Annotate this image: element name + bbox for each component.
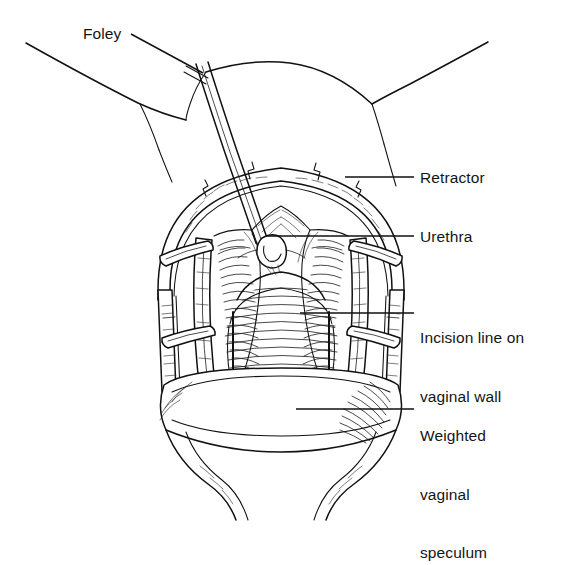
thigh-left: [26, 43, 186, 182]
label-speculum-line-2: vaginal: [420, 485, 487, 505]
label-retractor: Retractor: [420, 168, 485, 188]
mons-and-labia: [186, 62, 372, 120]
urethral-meatus: [238, 235, 305, 275]
weighted-vaginal-speculum: [160, 368, 402, 520]
foley-catheter: [184, 62, 268, 246]
label-foley: Foley: [83, 24, 121, 44]
label-speculum-line-1: Weighted: [420, 426, 487, 446]
label-incision-line-1: Incision line on: [420, 328, 524, 348]
label-speculum-line-3: speculum: [420, 543, 487, 563]
thigh-right: [372, 42, 488, 186]
leader-foley: [131, 34, 203, 73]
label-urethra: Urethra: [420, 227, 472, 247]
label-weighted-vaginal-speculum: Weighted vaginal speculum: [420, 387, 487, 565]
